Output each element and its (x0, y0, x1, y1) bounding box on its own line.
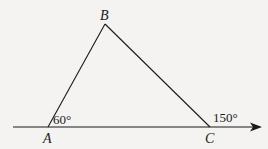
side-bc (105, 24, 210, 127)
triangle-diagram: B A C 60° 150° (0, 0, 268, 149)
angle-label-c: 150° (213, 110, 238, 125)
angle-label-a: 60° (53, 112, 71, 127)
vertex-label-c: C (205, 131, 215, 146)
vertex-label-b: B (100, 8, 109, 23)
vertex-label-a: A (42, 131, 52, 146)
